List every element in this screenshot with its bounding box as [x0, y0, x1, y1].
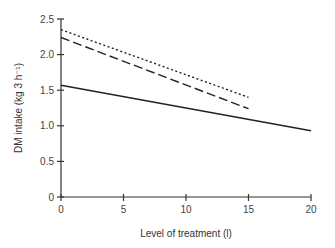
y-axis-title: DM intake (kg 3 h⁻¹): [13, 63, 24, 153]
y-tick-label: 0: [48, 192, 54, 203]
y-tick-label: 2.0: [40, 49, 54, 60]
x-tick-label: 10: [180, 204, 192, 215]
solid-line: [61, 85, 311, 131]
dashed-line: [61, 38, 249, 109]
x-tick-label: 15: [243, 204, 255, 215]
y-tick-label: 1.0: [40, 120, 54, 131]
y-tick-label: 0.5: [40, 156, 54, 167]
x-axis-title: Level of treatment (l): [140, 228, 232, 239]
y-tick-label: 2.5: [40, 14, 54, 25]
y-tick-label: 1.5: [40, 85, 54, 96]
x-tick-label: 0: [58, 204, 64, 215]
x-tick-label: 20: [305, 204, 317, 215]
dotted-line: [61, 30, 249, 98]
x-tick-label: 5: [121, 204, 127, 215]
data-series: [61, 30, 311, 131]
line-chart: 00.51.01.52.02.5 05101520 Level of treat…: [0, 0, 335, 248]
